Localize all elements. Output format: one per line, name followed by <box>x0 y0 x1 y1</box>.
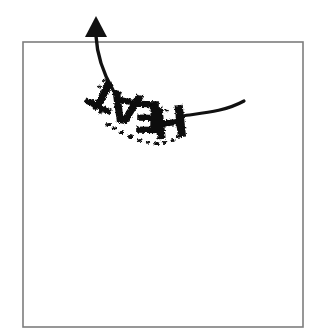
artwork-svg: TAEH <box>0 0 327 334</box>
page-background <box>0 0 327 334</box>
illustration-canvas: HEAT TAEH <box>0 0 327 334</box>
